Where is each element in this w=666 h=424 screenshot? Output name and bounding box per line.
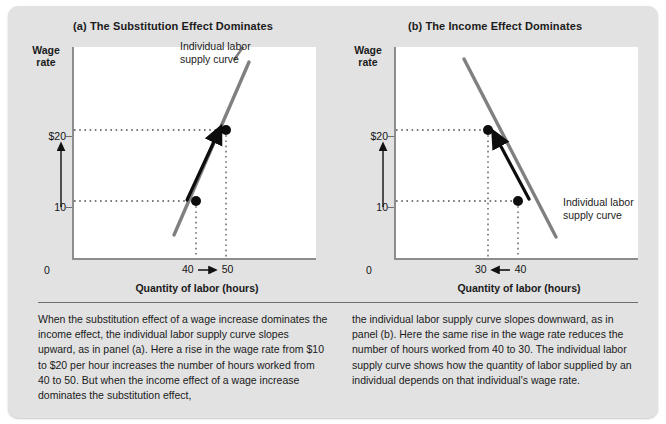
panel-a-x-tick-to: 50 — [222, 263, 234, 275]
panel-b-point-40-10 — [513, 196, 523, 206]
caption-column-left: When the substitution effect of a wage i… — [38, 312, 328, 403]
panel-b-plot-svg — [396, 47, 638, 258]
panel-a-curve-label-line2: supply curve — [180, 53, 251, 66]
panel-b-x-tick-from: 30 — [475, 263, 487, 275]
panel-a-curve-label-line1: Individual labor — [180, 40, 251, 53]
panel-b: (b) The Income Effect Dominates Wage rat… — [336, 20, 654, 292]
panel-a-plot-svg — [74, 47, 316, 258]
panel-a-y-axis-title: Wage rate — [22, 44, 70, 68]
panel-b-curve-label: Individual labor supply curve — [563, 196, 634, 221]
caption-column-right: the individual labor supply curve slopes… — [352, 312, 642, 403]
panel-a-title: (a) The Substitution Effect Dominates — [14, 20, 332, 32]
panel-a-x-arrow-right-icon — [197, 265, 219, 274]
panel-b-title: (b) The Income Effect Dominates — [336, 20, 654, 32]
panel-a-point-50-20 — [221, 125, 231, 135]
panel-a-y-axis-title-line2: rate — [22, 56, 70, 68]
panel-b-origin-label: 0 — [366, 264, 372, 276]
panel-b-y-axis-title: Wage rate — [344, 44, 392, 68]
panel-a-point-40-10 — [191, 196, 201, 206]
panel-a-y-axis-title-line1: Wage — [22, 44, 70, 56]
panel-b-movement-arrow-icon — [497, 139, 529, 199]
panel-b-point-30-20 — [483, 125, 493, 135]
panel-a-curve-label: Individual labor supply curve — [180, 40, 251, 65]
panel-b-x-tick-group: 30 40 — [475, 263, 526, 275]
panel-a-plot-area — [72, 47, 316, 260]
panel-b-wage-increase-arrow-icon — [374, 139, 392, 211]
panel-a-x-tick-group: 40 50 — [182, 263, 233, 275]
panel-b-y-axis-title-line2: rate — [344, 56, 392, 68]
panel-b-x-axis-title: Quantity of labor (hours) — [394, 282, 644, 294]
panel-a-x-tick-from: 40 — [182, 263, 194, 275]
panel-a-x-axis-title: Quantity of labor (hours) — [72, 282, 322, 294]
panel-a: (a) The Substitution Effect Dominates Wa… — [14, 20, 332, 292]
panel-b-x-arrow-left-icon — [490, 265, 512, 274]
panel-b-curve-label-line1: Individual labor — [563, 196, 634, 209]
panel-b-curve-label-line2: supply curve — [563, 209, 634, 222]
panel-b-x-tick-to: 40 — [515, 263, 527, 275]
panel-a-wage-increase-arrow-icon — [52, 139, 70, 211]
panel-a-origin-label: 0 — [44, 264, 50, 276]
caption-divider — [38, 302, 638, 303]
caption-block: When the substitution effect of a wage i… — [38, 312, 642, 403]
panel-b-plot-area — [394, 47, 638, 260]
panel-b-y-axis-title-line1: Wage — [344, 44, 392, 56]
figure-container: (a) The Substitution Effect Dominates Wa… — [8, 6, 658, 418]
panel-a-movement-arrow-icon — [187, 135, 217, 200]
panel-b-supply-curve — [464, 59, 556, 237]
